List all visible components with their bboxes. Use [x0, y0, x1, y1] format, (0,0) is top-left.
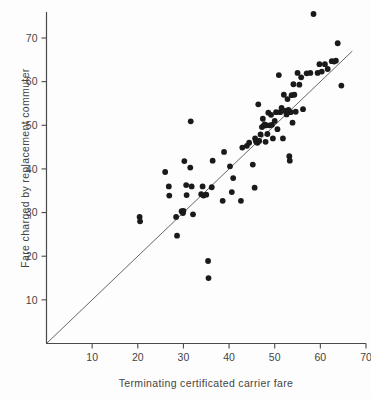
- scatter-point: [166, 193, 172, 199]
- scatter-point: [229, 189, 235, 195]
- scatter-point: [200, 183, 206, 189]
- scatter-point: [209, 184, 215, 190]
- scatter-point: [293, 109, 299, 115]
- scatter-point: [287, 158, 293, 164]
- scatter-point: [311, 11, 317, 17]
- scatter-point: [174, 233, 180, 239]
- plot-canvas: 10203040506070 10203040506070: [0, 0, 371, 399]
- scatter-point: [252, 185, 258, 191]
- scatter-point: [268, 112, 274, 118]
- scatter-point: [206, 275, 212, 281]
- scatter-point: [238, 198, 244, 204]
- scatter-point: [250, 162, 256, 168]
- y-axis-label: Fare charged by replacement commuter: [14, 18, 36, 318]
- x-tick-label: 70: [360, 351, 371, 363]
- scatter-point: [221, 149, 227, 155]
- x-tick-label: 40: [223, 351, 235, 363]
- scatter-point: [183, 182, 189, 188]
- scatter-point: [296, 82, 302, 88]
- scatter-point: [203, 192, 209, 198]
- reference-line-segment: [47, 51, 353, 343]
- scatter-points: [137, 11, 345, 281]
- scatter-point: [190, 211, 196, 217]
- scatter-point: [298, 74, 304, 80]
- scatter-point: [166, 183, 172, 189]
- scatter-point: [307, 70, 313, 76]
- scatter-point: [260, 116, 266, 122]
- scatter-point: [173, 214, 179, 220]
- scatter-point: [220, 198, 226, 204]
- scatter-point: [333, 58, 339, 64]
- scatter-point: [275, 126, 281, 132]
- scatter-point: [272, 118, 278, 124]
- scatter-point: [255, 101, 261, 107]
- scatter-point: [205, 258, 211, 264]
- x-tick-label: 50: [269, 351, 281, 363]
- scatter-point: [184, 192, 190, 198]
- scatter-point: [290, 120, 296, 126]
- scatter-point: [291, 92, 297, 98]
- scatter-point: [265, 131, 271, 137]
- scatter-point: [270, 135, 276, 141]
- scatter-point: [335, 40, 341, 46]
- scatter-point: [246, 140, 252, 146]
- x-tick-label: 10: [86, 351, 98, 363]
- scatter-point: [256, 138, 262, 144]
- scatter-point: [317, 61, 323, 67]
- scatter-point: [137, 218, 143, 224]
- x-axis-label: Terminating certificated carrier fare: [46, 377, 366, 389]
- scatter-point: [187, 165, 193, 171]
- scatter-point: [162, 169, 168, 175]
- scatter-point: [181, 158, 187, 164]
- scatter-point: [210, 158, 216, 164]
- scatter-point: [227, 163, 233, 169]
- scatter-point: [319, 69, 325, 75]
- x-tick-label: 20: [132, 351, 144, 363]
- scatter-point: [280, 135, 286, 141]
- x-axis-ticks: 10203040506070: [86, 344, 371, 363]
- scatter-point: [300, 106, 306, 112]
- scatter-point: [291, 81, 297, 87]
- scatter-point: [258, 132, 264, 138]
- scatter-point: [188, 118, 194, 124]
- x-tick-label: 60: [315, 351, 327, 363]
- scatter-point: [263, 139, 269, 145]
- scatter-point: [189, 183, 195, 189]
- x-tick-label: 30: [178, 351, 190, 363]
- scatter-point: [276, 72, 282, 78]
- identity-reference-line: [47, 51, 353, 343]
- scatter-point: [338, 83, 344, 89]
- scatter-point: [181, 208, 187, 214]
- scatter-point: [325, 66, 331, 72]
- scatter-point: [288, 109, 294, 115]
- scatter-plot-figure: 10203040506070 10203040506070 Fare charg…: [0, 0, 371, 399]
- scatter-point: [230, 175, 236, 181]
